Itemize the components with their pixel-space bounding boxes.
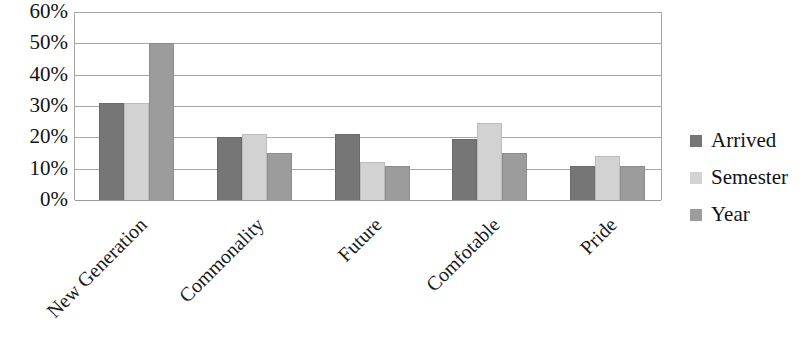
bar — [452, 139, 477, 200]
bar-group — [99, 13, 174, 200]
legend-swatch-icon — [690, 172, 702, 184]
y-axis-tick-label: 20% — [0, 126, 68, 147]
bar — [242, 134, 267, 200]
bar — [360, 162, 385, 200]
bar-group — [217, 13, 292, 200]
bar — [217, 137, 242, 200]
bar — [149, 43, 174, 200]
bar — [267, 153, 292, 200]
y-axis-tick-label: 10% — [0, 158, 68, 179]
legend-label: Semester — [711, 167, 788, 188]
x-axis-category-label: New Generation — [0, 214, 150, 359]
bar-group — [335, 13, 410, 200]
legend-item: Year — [690, 196, 809, 233]
bar-group — [452, 13, 527, 200]
bar — [124, 103, 149, 200]
bar — [477, 123, 502, 200]
bar — [335, 134, 360, 200]
x-axis-category-labels: New GenerationCommonalityFutureComfotabl… — [0, 200, 809, 359]
y-axis-tick-label: 50% — [0, 32, 68, 53]
bar — [99, 103, 124, 200]
bar — [570, 166, 595, 200]
bar — [502, 153, 527, 200]
legend-item: Arrived — [690, 122, 809, 159]
legend-label: Year — [711, 204, 750, 225]
plot-area — [74, 12, 662, 200]
bar — [620, 166, 645, 200]
y-axis-tick-label: 30% — [0, 95, 68, 116]
bar-chart: 60%50%40%30%20%10%0% New GenerationCommo… — [0, 0, 809, 359]
legend: ArrivedSemesterYear — [690, 122, 809, 233]
bar — [385, 166, 410, 200]
bars-layer — [75, 13, 661, 200]
legend-swatch-icon — [690, 135, 702, 147]
legend-swatch-icon — [690, 209, 702, 221]
legend-item: Semester — [690, 159, 809, 196]
bar-group — [570, 13, 645, 200]
y-axis-tick-label: 60% — [0, 1, 68, 22]
y-axis-tick-label: 40% — [0, 64, 68, 85]
bar — [595, 156, 620, 200]
legend-label: Arrived — [711, 130, 776, 151]
